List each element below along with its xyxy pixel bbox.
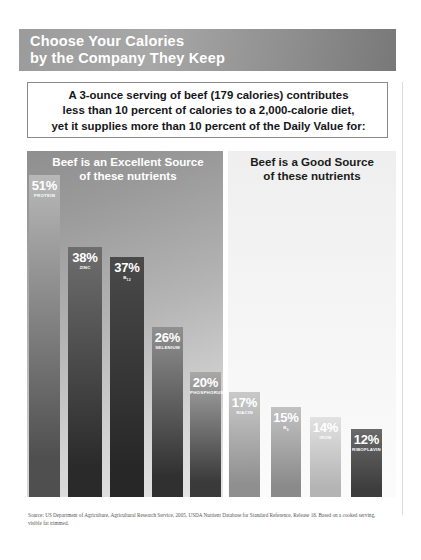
bar-label-riboflavin: 12%RIBOFLAVIN [351,433,382,452]
bar-nutrient-protein: PROTEIN [29,194,60,198]
bar-value-zinc: 38% [68,251,102,264]
infographic-poster: Choose Your Calories by the Company They… [0,0,421,560]
bar-nutrient-b12: B12 [110,276,144,282]
bar-value-iron: 14% [310,421,341,434]
bar-label-zinc: 38%ZINC [68,251,102,270]
right-edge-rule [402,82,403,515]
bar-value-protein: 51% [29,179,60,192]
bar-nutrient-zinc: ZINC [68,266,102,270]
bar-nutrient-iron: IRON [310,436,341,440]
bar-label-protein: 51%PROTEIN [29,179,60,198]
bar-selenium: 26%SELENIUM [152,327,183,497]
bar-label-niacin: 17%NIACIN [229,396,260,415]
bar-value-selenium: 26% [152,331,183,344]
bar-label-selenium: 26%SELENIUM [152,331,183,350]
bar-value-b6: 15% [271,411,301,424]
bar-value-riboflavin: 12% [351,433,382,446]
bar-nutrient-niacin: NIACIN [229,411,260,415]
bar-value-phosphorus: 20% [190,376,221,389]
bar-nutrient-riboflavin: RIBOFLAVIN [351,448,382,452]
bar-value-b12: 37% [110,261,144,274]
bar-value-niacin: 17% [229,396,260,409]
bar-niacin: 17%NIACIN [229,392,260,497]
bar-label-phosphorus: 20%PHOSPHORUS [190,376,221,395]
bar-b12: 37%B12 [110,257,144,497]
bar-riboflavin: 12%RIBOFLAVIN [351,429,382,497]
source-note: Source: US Department of Agriculture, Ag… [28,511,378,527]
bar-nutrient-b6: B6 [271,426,301,432]
bar-protein: 51%PROTEIN [29,175,60,497]
bar-label-b6: 15%B6 [271,411,301,432]
bar-nutrient-selenium: SELENIUM [152,346,183,350]
bar-phosphorus: 20%PHOSPHORUS [190,372,221,497]
bar-label-iron: 14%IRON [310,421,341,440]
bar-zinc: 38%ZINC [68,247,102,497]
bar-chart: 51%PROTEIN38%ZINC37%B1226%SELENIUM20%PHO… [0,0,421,497]
bar-b6: 15%B6 [271,407,301,497]
bar-iron: 14%IRON [310,417,341,497]
bar-label-b12: 37%B12 [110,261,144,282]
bar-nutrient-phosphorus: PHOSPHORUS [190,391,221,395]
